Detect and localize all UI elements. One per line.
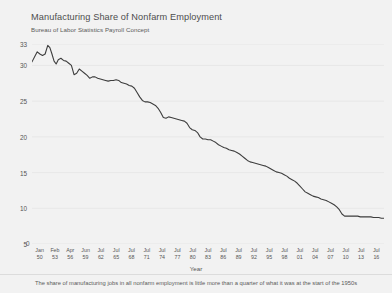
chart-subtitle: Bureau of Labor Statistics Payroll Conce… — [31, 26, 149, 33]
x-tick-year: 65 — [113, 254, 120, 261]
x-tick-month: Apr — [66, 247, 74, 254]
x-tick-year: 04 — [312, 254, 319, 261]
x-tick-month: Jul — [373, 247, 380, 254]
x-axis-title: Year — [0, 265, 392, 272]
x-tick-label: Jul68 — [128, 247, 135, 261]
footer-divider — [0, 274, 392, 275]
x-tick-label: Jul07 — [327, 247, 334, 261]
x-tick-year: 59 — [81, 254, 90, 261]
x-tick-label: Jul83 — [205, 247, 212, 261]
x-tick-year: 98 — [281, 254, 288, 261]
x-tick-label: Jul16 — [373, 247, 380, 261]
x-tick-year: 71 — [143, 254, 150, 261]
x-tick-label: Apr56 — [66, 247, 74, 261]
x-tick-month: Jul — [113, 247, 120, 254]
x-tick-month: Jul — [220, 247, 227, 254]
chart-title: Manufacturing Share of Nonfarm Employmen… — [31, 12, 222, 22]
x-tick-month: Jul — [251, 247, 258, 254]
x-tick-month: Jul — [189, 247, 196, 254]
x-tick-month: Jul — [128, 247, 135, 254]
y-axis-tick-labels: 5101520253033 — [0, 44, 30, 244]
x-tick-label: Jul65 — [113, 247, 120, 261]
x-tick-label: Jul86 — [220, 247, 227, 261]
chart-caption: The share of manufacturing jobs in all n… — [0, 280, 392, 286]
y-tick-label: 30 — [20, 62, 27, 69]
x-tick-label: Jul80 — [189, 247, 196, 261]
x-tick-label: Jul62 — [97, 247, 104, 261]
x-tick-year: 86 — [220, 254, 227, 261]
x-tick-year: 62 — [97, 254, 104, 261]
y-tick-label: 25 — [20, 98, 27, 105]
x-tick-year: 10 — [342, 254, 349, 261]
x-tick-month: Jul — [174, 247, 181, 254]
x-tick-label: Jun59 — [81, 247, 90, 261]
x-tick-month: Jul — [342, 247, 349, 254]
x-tick-label: Jul98 — [281, 247, 288, 261]
line-chart-svg — [32, 44, 384, 244]
x-tick-year: 56 — [66, 254, 74, 261]
x-tick-month: Jul — [143, 247, 150, 254]
x-tick-month: Jul — [312, 247, 319, 254]
x-tick-year: 53 — [50, 254, 59, 261]
x-tick-year: 68 — [128, 254, 135, 261]
x-tick-label: Jul95 — [266, 247, 273, 261]
x-tick-label: Feb53 — [50, 247, 59, 261]
x-tick-label: Jul92 — [251, 247, 258, 261]
x-tick-label: Jul89 — [235, 247, 242, 261]
x-tick-label: Jul01 — [296, 247, 303, 261]
y-axis-zero-label: 0 — [26, 240, 30, 247]
x-tick-label: Jul74 — [159, 247, 166, 261]
x-tick-month: Jul — [235, 247, 242, 254]
x-tick-label: Jul10 — [342, 247, 349, 261]
x-tick-year: 92 — [251, 254, 258, 261]
x-tick-month: Jul — [327, 247, 334, 254]
x-tick-label: Jan50 — [35, 247, 44, 261]
x-tick-year: 07 — [327, 254, 334, 261]
x-tick-month: Jul — [266, 247, 273, 254]
data-line-manufacturing-share — [32, 45, 384, 218]
x-tick-year: 01 — [296, 254, 303, 261]
x-tick-month: Jul — [296, 247, 303, 254]
x-tick-label: Jul04 — [312, 247, 319, 261]
x-tick-label: Jul13 — [358, 247, 365, 261]
x-tick-month: Jul — [97, 247, 104, 254]
y-tick-label: 20 — [20, 133, 27, 140]
x-tick-year: 80 — [189, 254, 196, 261]
x-tick-year: 13 — [358, 254, 365, 261]
chart-figure: Manufacturing Share of Nonfarm Employmen… — [0, 0, 392, 293]
x-tick-year: 89 — [235, 254, 242, 261]
plot-area — [32, 44, 384, 244]
x-tick-month: Jul — [205, 247, 212, 254]
x-tick-year: 16 — [373, 254, 380, 261]
x-tick-label: Jul77 — [174, 247, 181, 261]
y-tick-label: 15 — [20, 169, 27, 176]
x-tick-label: Jul71 — [143, 247, 150, 261]
x-tick-month: Jun — [81, 247, 90, 254]
y-tick-label: 33 — [20, 41, 27, 48]
x-tick-month: Jul — [281, 247, 288, 254]
x-axis-tick-labels: Jan50Feb53Apr56Jun59Jul62Jul65Jul68Jul71… — [32, 247, 384, 267]
x-tick-month: Feb — [50, 247, 59, 254]
x-tick-year: 95 — [266, 254, 273, 261]
x-tick-year: 50 — [35, 254, 44, 261]
x-tick-year: 83 — [205, 254, 212, 261]
y-tick-label: 10 — [20, 205, 27, 212]
x-tick-year: 74 — [159, 254, 166, 261]
x-tick-year: 77 — [174, 254, 181, 261]
x-tick-month: Jan — [35, 247, 44, 254]
x-tick-month: Jul — [358, 247, 365, 254]
x-tick-month: Jul — [159, 247, 166, 254]
